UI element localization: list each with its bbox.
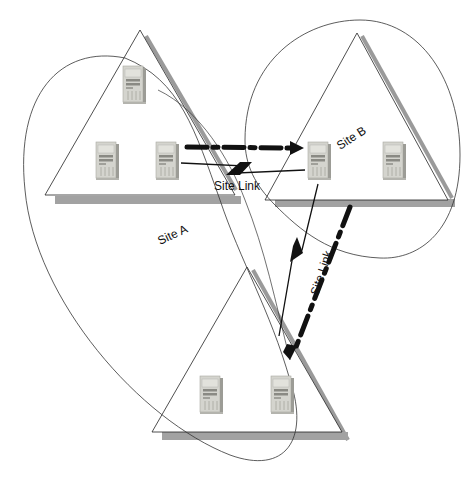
server-icon [383, 142, 406, 180]
server-icon [271, 376, 294, 414]
site-a-triangle [45, 30, 245, 204]
server-icon [156, 142, 179, 180]
site-link-ab-label: Site Link [214, 179, 261, 193]
site-a-label: Site A [155, 222, 189, 248]
server-icon [96, 142, 119, 180]
server-icon [123, 66, 146, 104]
site-b-triangle [265, 33, 455, 207]
site-topology-diagram: Site Link Site Link Site B Site A [0, 0, 474, 479]
server-icon [308, 142, 331, 180]
diagram-canvas: Site Link Site Link Site B Site A [0, 0, 474, 479]
server-icon [200, 376, 223, 414]
site-link-bc-label: Site Link [308, 248, 336, 297]
